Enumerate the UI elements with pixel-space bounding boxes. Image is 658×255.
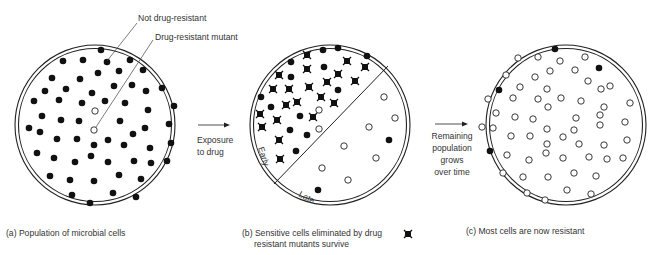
resistant-cell: [571, 170, 577, 176]
resistant-cell: [573, 115, 579, 121]
sensitive-cell: [496, 87, 503, 94]
resistant-cell: [604, 156, 610, 162]
arrow-label-line: population: [420, 142, 484, 154]
sensitive-cell: [487, 148, 494, 155]
killed-cell-icon: [361, 63, 369, 71]
resistant-cell: [524, 190, 530, 196]
killed-cell-icon: [273, 116, 281, 124]
killed-cell-icon: [317, 93, 325, 101]
sensitive-cell: [74, 136, 81, 143]
arrow-label-line: grows: [420, 154, 484, 166]
sensitive-cell: [143, 88, 150, 95]
sensitive-cell: [147, 145, 154, 152]
resistant-cell: [512, 114, 518, 120]
resistant-cell: [607, 83, 613, 89]
arrow-label-exposure: Exposure to drug: [197, 134, 233, 158]
sensitive-cell: [168, 140, 175, 147]
resistant-cell: [544, 141, 550, 147]
sensitive-cell: [304, 132, 311, 139]
caption-b-text: (b) Sensitive cells eliminated by drug: [242, 228, 382, 238]
sensitive-cell: [315, 187, 322, 194]
sensitive-cell: [164, 158, 171, 165]
caption-b-line1: (b) Sensitive cells eliminated by drug;: [242, 228, 406, 239]
resistant-cell: [526, 157, 532, 163]
resistant-cell: [530, 116, 536, 122]
resistant-cell: [493, 110, 499, 116]
sensitive-cell: [121, 142, 128, 149]
resistant-cell: [373, 155, 379, 161]
resistant-cell: [560, 134, 566, 140]
sensitive-cell: [287, 127, 294, 134]
sensitive-cell: [79, 100, 86, 107]
sensitive-cell: [54, 136, 61, 143]
arrow-label-line: Exposure: [197, 134, 233, 146]
killed-cell-icon: [256, 110, 264, 118]
sensitive-cell: [104, 59, 111, 66]
resistant-cell: [504, 152, 510, 158]
sensitive-cell: [26, 125, 33, 132]
sensitive-cell: [297, 113, 304, 120]
resistant-cell: [557, 58, 563, 64]
resistant-cell: [319, 165, 325, 171]
killed-cell-icon: [309, 113, 317, 121]
resistant-cell: [91, 127, 97, 133]
sensitive-cell: [102, 98, 109, 105]
sensitive-cell: [133, 194, 140, 201]
sensitive-cell: [91, 178, 98, 185]
killed-cell-icon: [343, 57, 351, 65]
sensitive-cell: [364, 53, 371, 60]
resistant-cell: [508, 133, 514, 139]
sensitive-cell: [288, 74, 295, 81]
sensitive-cell: [171, 103, 178, 110]
resistant-cell: [503, 72, 509, 78]
sensitive-cell: [145, 107, 152, 114]
killed-cell-icon: [303, 51, 311, 59]
panel-a-dish: [15, 45, 177, 206]
resistant-cell: [597, 122, 603, 128]
dish-inner-rim: [490, 49, 643, 202]
sensitive-cell: [116, 172, 123, 179]
sensitive-cell: [288, 59, 295, 66]
sensitive-cell: [105, 137, 112, 144]
killed-cell-icon: [282, 101, 290, 109]
resistant-cell: [597, 112, 603, 118]
resistant-cell: [490, 125, 496, 131]
arrow-label-growth: Remaining population grows over time: [420, 130, 484, 178]
sensitive-cell: [321, 64, 328, 71]
sensitive-cell: [95, 70, 102, 77]
resistant-cell: [558, 95, 564, 101]
resistant-cell: [627, 100, 633, 106]
dish-inner-rim: [254, 49, 407, 202]
sensitive-cell: [67, 177, 74, 184]
resistant-cell: [316, 126, 322, 132]
callout-not-drug-resistant: Not drug-resistant: [138, 13, 206, 24]
sensitive-cell: [56, 97, 63, 104]
resistant-cell: [588, 191, 594, 197]
killed-cell-icon: [351, 77, 359, 85]
resistant-cell: [576, 141, 582, 147]
sensitive-cell: [166, 121, 173, 128]
sensitive-cell: [49, 75, 56, 82]
killed-cell-icon: [269, 85, 277, 93]
resistant-cell: [572, 67, 578, 73]
killed-cell-icon: [303, 65, 311, 73]
resistant-cell: [544, 126, 550, 132]
panel-c-dish: [479, 45, 646, 205]
callout-line-resistant-mutant: [96, 40, 153, 127]
sensitive-cell: [335, 87, 342, 94]
sensitive-cell: [130, 131, 137, 138]
resistant-cell: [485, 96, 491, 102]
resistant-cell: [532, 74, 538, 80]
sensitive-cell: [88, 153, 95, 160]
panel-b-dish: [250, 45, 410, 205]
sensitive-cell: [293, 148, 300, 155]
sensitive-cell: [131, 158, 138, 165]
sensitive-cell: [552, 46, 559, 53]
sensitive-cell: [34, 150, 41, 157]
resistant-cell: [593, 173, 599, 179]
resistant-cell: [366, 124, 372, 130]
sensitive-cell: [127, 57, 134, 64]
resistant-cell: [535, 54, 541, 60]
resistant-cell: [545, 174, 551, 180]
sensitive-cell: [110, 190, 117, 197]
